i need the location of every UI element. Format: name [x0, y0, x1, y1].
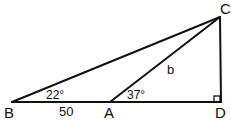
- angle-label-b: 22°: [46, 89, 64, 101]
- point-label-d: D: [215, 105, 226, 120]
- point-label-a: A: [104, 105, 114, 120]
- side-label-ba: 50: [59, 105, 73, 118]
- side-label-ac: b: [167, 63, 174, 76]
- angle-label-a: 37°: [127, 89, 145, 101]
- triangle-diagram: [0, 0, 231, 120]
- point-label-b: B: [4, 105, 14, 120]
- segment-cd: [220, 17, 221, 102]
- segment-bc: [12, 17, 220, 102]
- point-label-c: C: [220, 1, 231, 16]
